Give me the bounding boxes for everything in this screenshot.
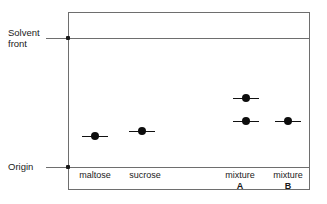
spot-dot bbox=[242, 117, 250, 125]
lane-name-mixture-b: mixture bbox=[273, 170, 303, 181]
spot-dot bbox=[284, 117, 292, 125]
chromatography-figure: Solvent front Origin maltosesucrosemixtu… bbox=[0, 0, 327, 204]
origin-node-marker bbox=[66, 165, 70, 169]
lane-sublabel-mixture-a: A bbox=[225, 181, 255, 192]
lane-sublabel-mixture-b: B bbox=[273, 181, 303, 192]
lane-caption-sucrose: sucrose bbox=[129, 170, 161, 181]
lane-name-mixture-a: mixture bbox=[225, 170, 255, 181]
origin-line bbox=[68, 167, 310, 168]
solvent-front-label: Solvent front bbox=[8, 27, 48, 49]
solvent-front-node-marker bbox=[66, 36, 70, 40]
lane-caption-mixture-a: mixtureA bbox=[225, 170, 255, 192]
lane-caption-mixture-b: mixtureB bbox=[273, 170, 303, 192]
origin-label: Origin bbox=[8, 161, 48, 172]
lane-name-sucrose: sucrose bbox=[129, 170, 161, 181]
lane-caption-maltose: maltose bbox=[79, 170, 111, 181]
lane-name-maltose: maltose bbox=[79, 170, 111, 181]
spot-dot bbox=[138, 127, 146, 135]
spot-dot bbox=[242, 94, 250, 102]
solvent-front-line bbox=[68, 38, 310, 39]
spot-dot bbox=[91, 132, 99, 140]
